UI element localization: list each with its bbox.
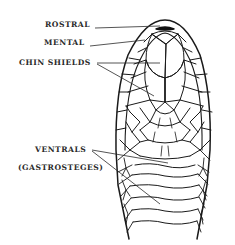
label-mental: MENTAL (44, 39, 85, 47)
anterior-chin-shield-right (165, 34, 184, 78)
ventral-plate-1 (135, 164, 195, 168)
posterior-chin-shield-right (165, 60, 185, 102)
left-flank-scales (118, 150, 133, 232)
ventral-plate-4 (131, 197, 199, 200)
jaw-inner-line (125, 33, 202, 150)
anterior-chin-shield-left (146, 34, 166, 78)
rostral-leader-line (95, 26, 160, 28)
ventral-plate-6 (133, 221, 197, 224)
label-rostral: ROSTRAL (45, 21, 90, 29)
posterior-chin-shield-left (145, 60, 165, 102)
gular-scales (120, 100, 210, 159)
label-chin-shields: CHIN SHIELDS (19, 59, 91, 67)
mental-leader-line (90, 40, 145, 46)
snake-head-illustration (0, 0, 235, 245)
right-flank-scales (197, 150, 210, 232)
ventrals-leader-line-2 (92, 151, 160, 204)
label-gastrosteges: (GASTROSTEGES) (18, 164, 103, 172)
ventral-plate-2 (132, 174, 198, 177)
snake-scale-diagram: ROSTRAL MENTAL CHIN SHIELDS VENTRALS (GA… (0, 0, 235, 245)
ventral-plate-3 (130, 185, 199, 188)
ventrals-leader-line-1 (92, 150, 168, 163)
ventral-plate-5 (132, 209, 198, 212)
rostral-scale (156, 27, 174, 30)
label-ventrals: VENTRALS (35, 146, 86, 154)
